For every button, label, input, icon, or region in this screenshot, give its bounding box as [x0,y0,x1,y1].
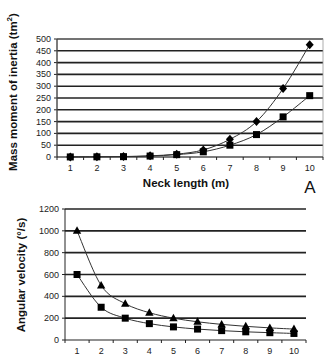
square-series-point [122,315,129,322]
x-tick-label: 7 [227,163,232,173]
x-tick-label: 1 [68,163,73,173]
y-tick-labels: 050100150200250300350400450500 [36,34,51,162]
chart-mass-moment: 050100150200250300350400450500 123456789… [5,13,323,197]
square-series-point [242,328,249,335]
series [73,226,298,337]
series [66,40,313,161]
square-series-point [74,271,81,278]
y-tick-label: 400 [44,291,59,301]
x-tick-label: 7 [219,346,224,356]
triangle-series-point [97,281,105,289]
diamond-series-point [306,40,314,49]
square-series-point [226,142,233,149]
axes [62,209,306,343]
x-tick-label: 10 [289,346,299,356]
y-tick-label: 1000 [39,226,59,236]
x-tick-label: 3 [121,163,126,173]
square-series-point [170,323,177,330]
triangle-series-line [77,231,294,329]
y-tick-label: 0 [54,335,59,345]
square-series-point [306,92,313,99]
y-tick-label: 200 [44,313,59,323]
square-series-line [70,96,309,157]
y-tick-label: 450 [36,46,51,56]
x-tick-labels: 12345678910 [75,346,299,356]
triangle-series-point [121,299,129,307]
x-tick-label: 8 [243,346,248,356]
x-tick-label: 10 [305,163,315,173]
panel-label: A [304,178,316,197]
y-tick-label: 250 [36,93,51,103]
square-series-point [200,148,207,155]
gridlines [65,209,306,318]
figure: 050100150200250300350400450500 123456789… [0,0,334,359]
square-series-point [266,329,273,336]
y-tick-label: 400 [36,58,51,68]
square-series-point [253,131,260,138]
x-tick-label: 6 [195,346,200,356]
square-series-point [93,153,100,160]
triangle-series-point [242,322,250,330]
x-tick-label: 9 [281,163,286,173]
square-series-point [147,153,154,160]
square-series-point [218,327,225,334]
x-tick-label: 6 [201,163,206,173]
y-tick-label: 0 [46,152,51,162]
y-axis-label: Mass moment of inertia (tm2) [5,13,19,171]
x-tick-label: 9 [267,346,272,356]
y-tick-label: 300 [36,81,51,91]
y-tick-labels: 020040060080010001200 [39,204,59,345]
x-tick-label: 3 [123,346,128,356]
x-tick-label: 5 [174,163,179,173]
square-series-point [120,153,127,160]
y-tick-label: 200 [36,105,51,115]
x-tick-label: 8 [254,163,259,173]
x-tick-labels: 12345678910 [68,163,315,173]
square-series-point [98,304,105,311]
x-axis-label: Neck length (m) [143,177,229,189]
y-tick-label: 600 [44,270,59,280]
chart-angular-velocity: 020040060080010001200 12345678910 Angula… [15,204,306,356]
y-tick-label: 800 [44,248,59,258]
square-series-point [67,153,74,160]
x-tick-label: 2 [99,346,104,356]
x-tick-label: 4 [148,163,153,173]
diamond-series-line [70,45,309,157]
square-series-line [77,275,294,334]
x-tick-label: 4 [147,346,152,356]
y-tick-label: 100 [36,128,51,138]
x-tick-label: 1 [75,346,80,356]
y-tick-label: 350 [36,69,51,79]
axes [54,39,323,160]
y-tick-label: 1200 [39,204,59,214]
x-tick-label: 5 [171,346,176,356]
square-series-point [146,320,153,327]
y-tick-label: 150 [36,117,51,127]
square-series-point [173,151,180,158]
square-series-point [194,326,201,333]
square-series-point [280,113,287,120]
square-series-point [290,330,297,337]
y-tick-label: 50 [41,140,51,150]
y-tick-label: 500 [36,34,51,44]
y-axis-label: Angular velocity (°/s) [15,218,27,333]
x-tick-label: 2 [94,163,99,173]
